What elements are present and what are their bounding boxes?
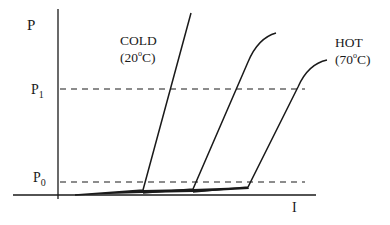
p1-label: P1 xyxy=(31,82,44,100)
cold-temp-label: (20oC) xyxy=(120,49,156,65)
cold-label: COLD xyxy=(120,33,157,48)
hot-temp-label: (70oC) xyxy=(335,51,371,67)
p0-label: P0 xyxy=(33,170,46,188)
curve-hot xyxy=(193,60,327,192)
x-axis-label: I xyxy=(292,200,297,215)
hot-label: HOT xyxy=(335,35,363,50)
curve-middle xyxy=(143,33,276,193)
laser-pi-curve-diagram: P I P1 P0 COLD (20oC) HOT (70oC) xyxy=(0,0,390,225)
y-axis-label: P xyxy=(27,17,35,33)
